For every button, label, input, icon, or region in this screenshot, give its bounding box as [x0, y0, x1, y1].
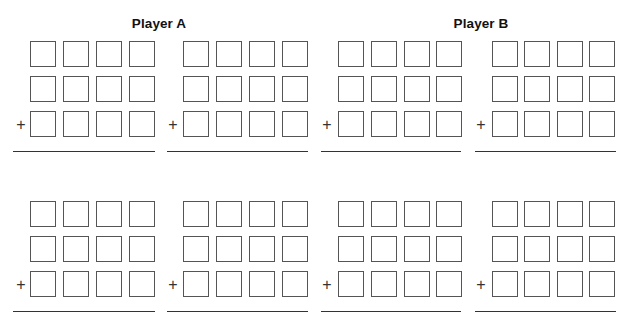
digit-box[interactable]	[436, 111, 462, 137]
digit-box[interactable]	[96, 76, 122, 102]
digit-box[interactable]	[216, 111, 242, 137]
digit-box[interactable]	[129, 76, 155, 102]
digit-box[interactable]	[338, 271, 364, 297]
digit-box[interactable]	[524, 76, 550, 102]
digit-box[interactable]	[282, 236, 308, 262]
digit-box[interactable]	[282, 41, 308, 67]
answer-line	[321, 151, 461, 152]
digit-box[interactable]	[557, 271, 583, 297]
digit-box[interactable]	[589, 41, 615, 67]
digit-box[interactable]	[282, 201, 308, 227]
digit-box[interactable]	[524, 41, 550, 67]
digit-box[interactable]	[249, 201, 275, 227]
digit-box[interactable]	[249, 236, 275, 262]
digit-box[interactable]	[589, 236, 615, 262]
digit-box[interactable]	[63, 201, 89, 227]
digit-box[interactable]	[249, 41, 275, 67]
digit-box[interactable]	[183, 236, 209, 262]
digit-box[interactable]	[492, 201, 518, 227]
digit-box[interactable]	[436, 236, 462, 262]
digit-box[interactable]	[183, 41, 209, 67]
digit-box[interactable]	[492, 76, 518, 102]
digit-box[interactable]	[371, 41, 397, 67]
digit-box[interactable]	[129, 41, 155, 67]
digit-box[interactable]	[404, 41, 430, 67]
digit-box[interactable]	[216, 201, 242, 227]
plus-icon: +	[15, 117, 27, 133]
digit-box[interactable]	[371, 236, 397, 262]
digit-box[interactable]	[404, 111, 430, 137]
digit-box[interactable]	[404, 201, 430, 227]
digit-box[interactable]	[557, 236, 583, 262]
digit-box[interactable]	[30, 41, 56, 67]
digit-box[interactable]	[557, 76, 583, 102]
digit-box[interactable]	[30, 236, 56, 262]
digit-box[interactable]	[96, 201, 122, 227]
digit-box[interactable]	[249, 271, 275, 297]
digit-box[interactable]	[589, 76, 615, 102]
digit-box[interactable]	[129, 271, 155, 297]
digit-box[interactable]	[249, 111, 275, 137]
digit-box[interactable]	[338, 111, 364, 137]
digit-box[interactable]	[282, 76, 308, 102]
digit-box[interactable]	[282, 111, 308, 137]
digit-box[interactable]	[557, 41, 583, 67]
digit-box[interactable]	[436, 76, 462, 102]
player-a-heading: Player A	[99, 15, 219, 33]
digit-box[interactable]	[183, 76, 209, 102]
digit-box[interactable]	[524, 271, 550, 297]
digit-box[interactable]	[589, 271, 615, 297]
digit-box[interactable]	[129, 111, 155, 137]
digit-box[interactable]	[338, 236, 364, 262]
digit-box[interactable]	[63, 236, 89, 262]
digit-box[interactable]	[492, 41, 518, 67]
digit-box[interactable]	[436, 201, 462, 227]
digit-box[interactable]	[183, 271, 209, 297]
digit-box[interactable]	[492, 271, 518, 297]
digit-box[interactable]	[183, 111, 209, 137]
digit-box[interactable]	[96, 111, 122, 137]
digit-box[interactable]	[371, 111, 397, 137]
digit-box[interactable]	[282, 271, 308, 297]
digit-box[interactable]	[63, 271, 89, 297]
digit-box[interactable]	[492, 236, 518, 262]
digit-box[interactable]	[216, 41, 242, 67]
digit-box[interactable]	[404, 271, 430, 297]
digit-box[interactable]	[63, 111, 89, 137]
digit-box[interactable]	[589, 111, 615, 137]
digit-box[interactable]	[30, 111, 56, 137]
digit-box[interactable]	[216, 236, 242, 262]
digit-box[interactable]	[183, 201, 209, 227]
digit-box[interactable]	[63, 76, 89, 102]
digit-box[interactable]	[524, 201, 550, 227]
digit-box[interactable]	[371, 76, 397, 102]
digit-box[interactable]	[404, 76, 430, 102]
digit-box[interactable]	[436, 271, 462, 297]
digit-box[interactable]	[557, 111, 583, 137]
digit-box[interactable]	[557, 201, 583, 227]
digit-box[interactable]	[96, 271, 122, 297]
digit-box[interactable]	[129, 236, 155, 262]
answer-line	[13, 151, 155, 152]
digit-box[interactable]	[338, 201, 364, 227]
digit-box[interactable]	[404, 236, 430, 262]
digit-box[interactable]	[96, 41, 122, 67]
digit-box[interactable]	[436, 41, 462, 67]
digit-box[interactable]	[524, 236, 550, 262]
digit-box[interactable]	[63, 41, 89, 67]
digit-box[interactable]	[338, 76, 364, 102]
digit-box[interactable]	[216, 76, 242, 102]
digit-box[interactable]	[249, 76, 275, 102]
digit-box[interactable]	[492, 111, 518, 137]
digit-box[interactable]	[129, 201, 155, 227]
digit-box[interactable]	[371, 201, 397, 227]
digit-box[interactable]	[524, 111, 550, 137]
digit-box[interactable]	[30, 271, 56, 297]
digit-box[interactable]	[589, 201, 615, 227]
digit-box[interactable]	[338, 41, 364, 67]
digit-box[interactable]	[216, 271, 242, 297]
digit-box[interactable]	[371, 271, 397, 297]
digit-box[interactable]	[30, 76, 56, 102]
digit-box[interactable]	[30, 201, 56, 227]
digit-box[interactable]	[96, 236, 122, 262]
